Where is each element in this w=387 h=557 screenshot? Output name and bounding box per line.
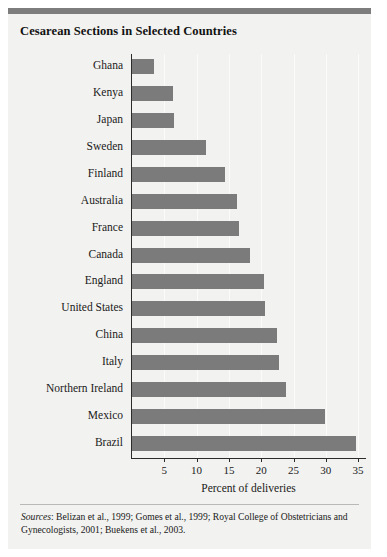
bars-group: GhanaKenyaJapanSwedenFinlandAustraliaFra… [8,54,371,458]
bar [132,86,173,101]
tick-mark-5 [164,458,165,462]
bar [132,221,239,236]
bar-category-label: Northern Ireland [0,382,123,394]
bar-row: Australia [8,189,371,216]
bar-row: United States [8,296,371,323]
bar-category-label: France [0,221,123,233]
tick-label-10: 10 [182,464,212,476]
bar [132,355,279,370]
tick-mark-35 [358,458,359,462]
bar-category-label: Canada [0,248,123,260]
bar [132,194,237,209]
y-axis-line [131,54,132,458]
bar-category-label: Kenya [0,86,123,98]
bar [132,113,174,128]
top-rule-decoration [8,8,371,14]
bar [132,382,286,397]
bar-row: China [8,323,371,350]
bar-category-label: Italy [0,355,123,367]
bar-row: Northern Ireland [8,377,371,404]
figure-panel: Cesarean Sections in Selected Countries … [8,8,371,549]
bar [132,140,206,155]
bar-row: Ghana [8,54,371,81]
x-axis-title: Percent of deliveries [131,482,366,494]
tick-label-30: 30 [311,464,341,476]
bar [132,248,250,263]
bar [132,436,356,451]
bar [132,167,225,182]
tick-label-15: 15 [214,464,244,476]
bar-row: Kenya [8,81,371,108]
tick-mark-10 [197,458,198,462]
bar-category-label: Australia [0,194,123,206]
plot-area: GhanaKenyaJapanSwedenFinlandAustraliaFra… [8,54,371,466]
source-citations: Belizan et al., 1999; Gomes et al., 1999… [21,511,348,535]
bar [132,328,277,343]
source-note: Sources: Belizan et al., 1999; Gomes et … [21,511,351,536]
tick-mark-15 [229,458,230,462]
bar-row: Japan [8,108,371,135]
bar-category-label: Sweden [0,140,123,152]
bar-row: Sweden [8,135,371,162]
bar-row: France [8,216,371,243]
tick-label-20: 20 [246,464,276,476]
bar-row: Italy [8,350,371,377]
bar-row: England [8,269,371,296]
bar [132,301,265,316]
bar-row: Mexico [8,404,371,431]
bar [132,274,264,289]
tick-mark-25 [294,458,295,462]
source-divider [20,504,359,505]
bar [132,409,325,424]
chart-title: Cesarean Sections in Selected Countries [20,24,237,39]
tick-label-25: 25 [279,464,309,476]
bar-category-label: Japan [0,113,123,125]
x-axis-tick-labels: 5101520253035 [8,464,371,480]
tick-label-35: 35 [343,464,373,476]
bar-category-label: China [0,328,123,340]
tick-mark-20 [261,458,262,462]
bar-row: Finland [8,162,371,189]
bar-category-label: United States [0,301,123,313]
bar [132,59,154,74]
source-label: Sources [21,511,51,522]
bar-category-label: Brazil [0,436,123,448]
bar-row: Brazil [8,431,371,458]
bar-category-label: Mexico [0,409,123,421]
bar-category-label: Finland [0,167,123,179]
bar-row: Canada [8,243,371,270]
bar-category-label: England [0,274,123,286]
tick-label-5: 5 [149,464,179,476]
x-axis-tick-marks [8,458,371,463]
tick-mark-30 [326,458,327,462]
bar-category-label: Ghana [0,59,123,71]
